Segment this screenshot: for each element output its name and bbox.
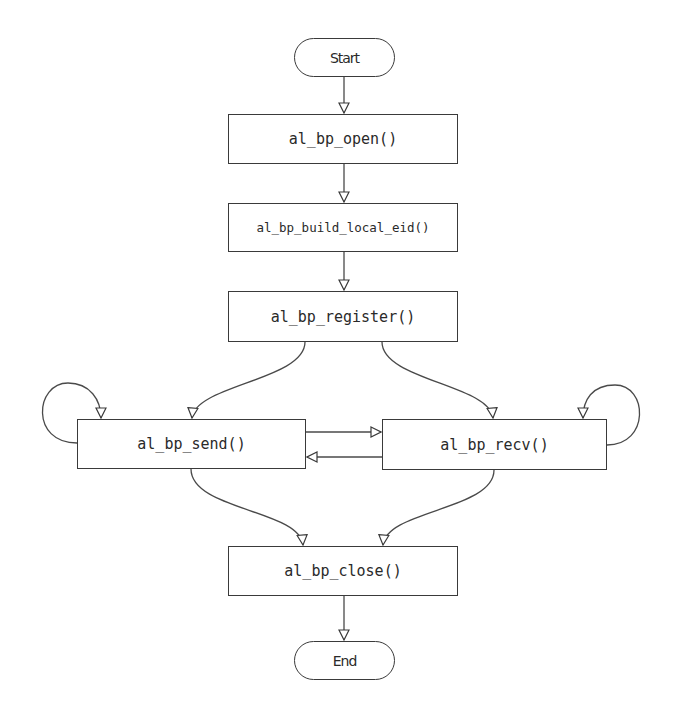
node-al-bp-build-local-eid-label: al_bp_build_local_eid() <box>256 220 429 235</box>
node-al-bp-open: al_bp_open() <box>228 114 458 164</box>
node-start-label: Start <box>330 50 359 66</box>
edge-recv-to-close <box>383 470 494 545</box>
node-al-bp-register: al_bp_register() <box>228 291 458 342</box>
node-end: End <box>294 641 395 680</box>
node-al-bp-register-label: al_bp_register() <box>271 308 416 326</box>
node-al-bp-send-label: al_bp_send() <box>137 435 245 453</box>
node-end-label: End <box>333 653 357 669</box>
node-al-bp-close: al_bp_close() <box>228 546 458 596</box>
edge-register-to-recv <box>382 342 493 418</box>
node-al-bp-send: al_bp_send() <box>77 419 306 469</box>
edge-register-to-send <box>192 342 305 418</box>
node-al-bp-recv: al_bp_recv() <box>382 419 607 470</box>
node-al-bp-recv-label: al_bp_recv() <box>440 436 548 454</box>
node-al-bp-close-label: al_bp_close() <box>284 562 401 580</box>
node-al-bp-build-local-eid: al_bp_build_local_eid() <box>228 203 458 252</box>
flowchart-diagram: Start al_bp_open() al_bp_build_local_eid… <box>0 0 677 723</box>
node-start: Start <box>294 38 395 77</box>
node-al-bp-open-label: al_bp_open() <box>289 130 397 148</box>
edge-send-to-close <box>191 469 303 545</box>
edges-layer <box>0 0 677 723</box>
